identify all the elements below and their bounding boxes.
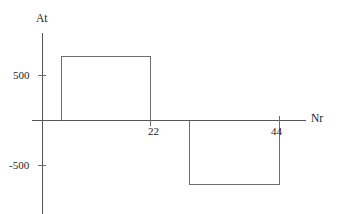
y-tick-label-500: 500 bbox=[13, 70, 30, 81]
chart-figure: At Nr 500 -500 22 44 bbox=[0, 0, 342, 214]
y-axis-title: At bbox=[36, 13, 48, 24]
negative-pulse-trace bbox=[190, 121, 280, 185]
x-axis-title: Nr bbox=[311, 113, 323, 124]
plot-area bbox=[0, 0, 342, 214]
x-tick-label-22: 22 bbox=[148, 126, 159, 137]
y-tick-label-minus-500: -500 bbox=[9, 160, 29, 171]
x-tick-label-44: 44 bbox=[271, 126, 282, 137]
positive-pulse-trace bbox=[62, 57, 151, 121]
